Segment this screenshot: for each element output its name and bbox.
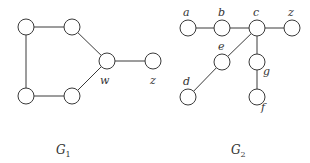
node-a — [180, 20, 196, 36]
node-v4 — [64, 88, 80, 104]
node-label-z: z — [149, 74, 156, 87]
graph-g2: abczegdfG2 — [180, 6, 300, 159]
node-label-e: e — [218, 40, 225, 53]
node-label-a: a — [183, 6, 190, 19]
node-z — [284, 20, 300, 36]
node-label-b: b — [218, 6, 225, 19]
node-b — [214, 20, 230, 36]
node-z — [145, 53, 161, 69]
node-v1 — [18, 19, 34, 35]
node-c — [249, 20, 265, 36]
node-label-c: c — [253, 6, 259, 19]
node-w — [99, 53, 115, 69]
graph-title: G2 — [231, 143, 246, 159]
graph-g1: wzG1 — [18, 19, 161, 159]
node-d — [180, 89, 196, 105]
node-v5 — [18, 88, 34, 104]
node-e — [214, 54, 230, 70]
node-label-z: z — [287, 6, 294, 19]
graph-title: G1 — [56, 143, 71, 159]
node-v2 — [64, 19, 80, 35]
graph-diagram: wzG1 abczegdfG2 — [0, 0, 310, 163]
node-label-f: f — [260, 101, 267, 114]
node-label-w: w — [100, 74, 110, 87]
node-label-d: d — [183, 75, 190, 88]
node-label-g: g — [263, 65, 270, 78]
